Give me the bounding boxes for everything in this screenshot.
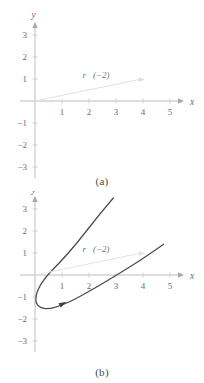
panel-caption-b: (b) (0, 366, 204, 378)
y-tick-label-1: 1 (23, 74, 28, 84)
y-axis-arrowhead (32, 22, 38, 28)
axes-group-a (20, 22, 184, 178)
x-axis-arrowhead (178, 272, 184, 278)
y-axis-label: y (31, 191, 37, 195)
position-vector-arrow (35, 251, 145, 275)
x-tick-label-4: 4 (141, 281, 146, 291)
plot-panel-a: x y 1 2 3 4 5 3 2 1 −1 −2 −3 (0, 0, 204, 192)
figure-panel-a: x y 1 2 3 4 5 3 2 1 −1 −2 −3 (0, 0, 204, 192)
y-tick-label-neg2: −2 (17, 140, 27, 150)
y-tick-label-neg1: −1 (17, 118, 27, 128)
y-tick-label-3: 3 (23, 204, 28, 214)
x-tick-label-1: 1 (60, 107, 65, 117)
y-axis-label: y (31, 10, 37, 20)
vector-label-a: r⃗(−2) (82, 70, 109, 80)
x-axis-label: x (189, 271, 195, 281)
x-tick-label-1: 1 (60, 281, 65, 291)
x-axis-label: x (189, 97, 195, 107)
y-tick-label-neg3: −3 (17, 162, 27, 172)
y-tick-label-1: 1 (23, 248, 28, 258)
y-tick-label-neg2: −2 (17, 314, 27, 324)
x-tick-label-3: 3 (114, 107, 119, 117)
y-tick-label-neg1: −1 (17, 292, 27, 302)
y-tick-label-2: 2 (23, 226, 28, 236)
curve-direction-arrowhead (59, 302, 67, 308)
x-tick-label-2: 2 (87, 107, 92, 117)
panel-caption-a: (a) (0, 175, 204, 187)
x-tick-label-3: 3 (114, 281, 119, 291)
position-vector-arrow (35, 77, 145, 101)
x-tick-label-5: 5 (168, 107, 173, 117)
vector-label-b: r⃗(−2) (82, 244, 109, 254)
y-axis-arrowhead (32, 196, 38, 202)
x-axis-arrowhead (178, 98, 184, 104)
axes-group-b (20, 196, 184, 352)
y-tick-label-3: 3 (23, 30, 28, 40)
x-tick-label-2: 2 (87, 281, 92, 291)
plot-panel-b: x y 1 2 3 4 5 3 2 1 −1 −2 −3 (0, 191, 204, 383)
y-tick-label-2: 2 (23, 52, 28, 62)
x-tick-label-4: 4 (141, 107, 146, 117)
figure-panel-b: x y 1 2 3 4 5 3 2 1 −1 −2 −3 (0, 191, 204, 383)
x-tick-label-5: 5 (168, 281, 173, 291)
y-tick-label-neg3: −3 (17, 336, 27, 346)
